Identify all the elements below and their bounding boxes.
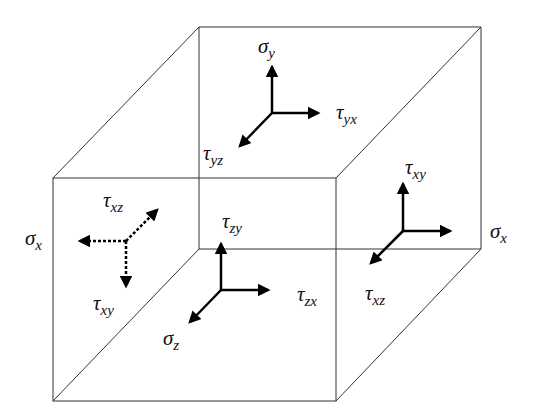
label-tau-yz: τyz <box>203 143 223 168</box>
label-sigma-x-right: σx <box>490 221 507 246</box>
label-tau-zx: τzx <box>297 284 317 309</box>
label-tau-xz-right: τxz <box>365 283 385 308</box>
label-tau-xz-left: τxz <box>103 190 123 215</box>
stress-cube-diagram: σy τyx τyz τxz σx τxy τzy τzx σz τxy σx … <box>0 0 533 416</box>
label-tau-xy-right: τxy <box>405 157 426 182</box>
left-face-arrows <box>80 210 157 286</box>
label-sigma-y: σy <box>258 36 275 61</box>
label-sigma-x-left: σx <box>25 228 42 253</box>
label-tau-xy-left: τxy <box>93 293 114 318</box>
front-face-arrows <box>190 244 268 322</box>
label-tau-zy: τzy <box>222 211 242 236</box>
top-face-arrows <box>240 67 318 146</box>
right-face-arrows <box>371 184 450 263</box>
cube-drawing <box>0 0 533 416</box>
label-sigma-z: σz <box>163 328 179 353</box>
label-tau-yx: τyx <box>336 102 357 127</box>
